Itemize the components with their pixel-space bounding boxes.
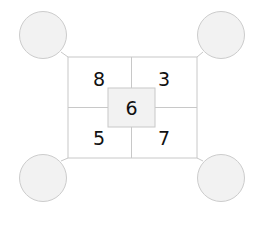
puzzle-diagram: 8 3 6 5 7 — [0, 0, 259, 226]
quadrant-bottom-right-value: 7 — [158, 127, 170, 149]
circle-top-right — [198, 12, 245, 59]
connector-bottom-right — [197, 158, 203, 161]
circle-bottom-left — [20, 155, 67, 202]
connector-bottom-left — [61, 158, 68, 161]
circle-top-left — [20, 12, 67, 59]
quadrant-bottom-left-value: 5 — [93, 127, 105, 149]
connector-top-right — [197, 52, 203, 57]
quadrant-top-left-value: 8 — [93, 68, 105, 90]
center-value: 6 — [125, 97, 137, 119]
connector-top-left — [61, 52, 68, 57]
circle-bottom-right — [198, 155, 245, 202]
quadrant-top-right-value: 3 — [158, 68, 170, 90]
